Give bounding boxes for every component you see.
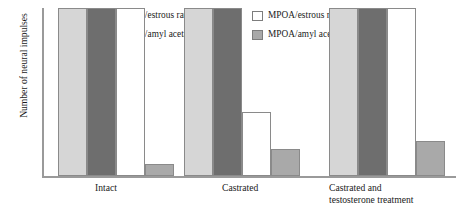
- bar: [329, 8, 358, 176]
- bar: [145, 164, 174, 176]
- x-axis-category-label-intact: Intact: [95, 182, 117, 194]
- bar: [358, 8, 387, 176]
- bar-group: [329, 8, 445, 176]
- y-axis-title: Number of neural impulses: [18, 0, 29, 146]
- bar-chart-figure: Olfactory bulbs/estrous rat urine MPOA/e…: [0, 0, 464, 213]
- bar: [116, 8, 145, 176]
- bar: [87, 8, 116, 176]
- bar: [184, 8, 213, 176]
- plot-area: [44, 8, 456, 176]
- x-axis-line: [42, 176, 456, 178]
- bar: [242, 112, 271, 176]
- bar-group: [184, 8, 300, 176]
- x-axis-category-label-castrated-testosterone: Castrated and testosterone treatment: [329, 182, 413, 206]
- bar: [58, 8, 87, 176]
- bar: [271, 149, 300, 176]
- bar: [387, 8, 416, 176]
- bar-group: [58, 8, 174, 176]
- x-axis-category-label-castrated: Castrated: [222, 182, 258, 194]
- bar: [416, 141, 445, 176]
- bar: [213, 8, 242, 176]
